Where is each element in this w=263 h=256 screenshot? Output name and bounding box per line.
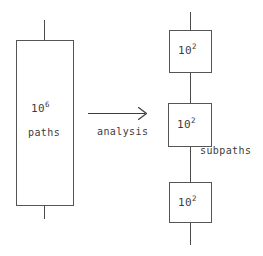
result-connector-2-3 — [190, 147, 191, 182]
source-block-count-exponent: 6 — [45, 100, 50, 109]
result-chain-bottom-connector — [190, 223, 191, 245]
source-block-top-connector — [44, 20, 45, 41]
source-block-count-base: 10 — [31, 102, 45, 115]
result-block-1-count: 102 — [178, 45, 197, 56]
result-connector-1-2 — [190, 73, 191, 103]
result-block-1-count-exponent: 2 — [192, 42, 197, 51]
source-block-unit: paths — [28, 128, 60, 138]
result-block-2-count-base: 10 — [177, 118, 191, 131]
result-block-3-count-base: 10 — [178, 196, 192, 209]
result-block-3-count: 102 — [178, 197, 197, 208]
result-block-2-count-exponent: 2 — [191, 116, 196, 125]
source-block-bottom-connector — [44, 205, 45, 219]
result-block-1-count-base: 10 — [178, 44, 192, 57]
right-arrow-icon — [138, 107, 147, 120]
source-block — [16, 40, 74, 206]
path-analysis-diagram: 106 paths analysis 102 102 subpaths 102 — [0, 0, 263, 256]
result-block-2-count: 102 — [177, 119, 196, 130]
result-chain-top-connector — [190, 12, 191, 31]
analysis-arrow-shaft — [88, 113, 145, 114]
source-block-count: 106 — [31, 103, 50, 114]
subpaths-annotation: subpaths — [200, 146, 251, 156]
analysis-label: analysis — [97, 127, 148, 137]
result-block-3-count-exponent: 2 — [192, 194, 197, 203]
